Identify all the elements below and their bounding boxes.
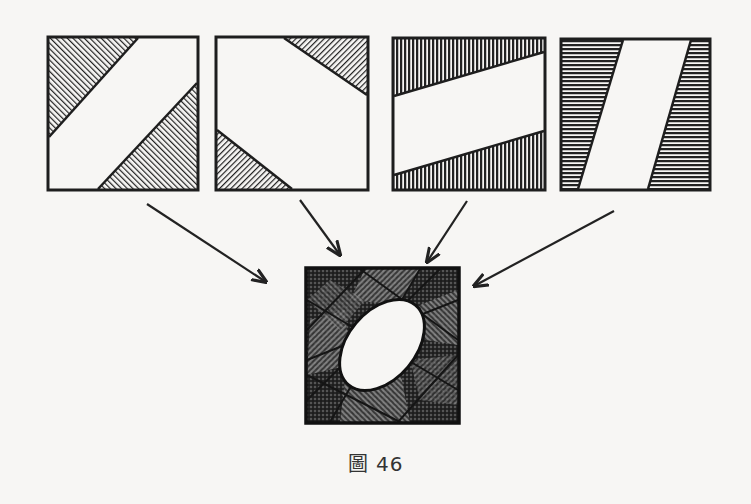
arrow-4 — [474, 211, 614, 286]
arrow-3 — [427, 201, 467, 262]
panel-3 — [393, 38, 545, 190]
arrow-1 — [147, 204, 266, 282]
arrow-2 — [300, 200, 340, 255]
panel-1 — [48, 37, 198, 190]
panel-2 — [216, 37, 368, 190]
figure-caption: 圖 46 — [0, 448, 751, 477]
figure-diagram — [0, 0, 751, 504]
combined-panel — [306, 268, 459, 423]
panel-4 — [561, 39, 710, 190]
